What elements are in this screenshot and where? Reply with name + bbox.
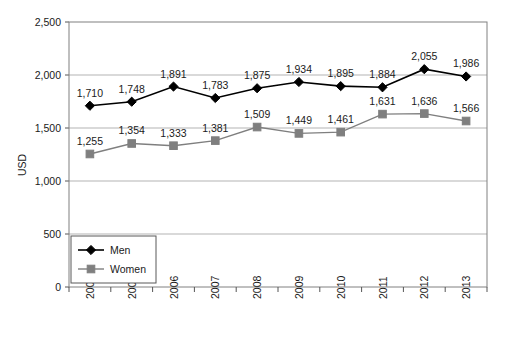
legend-item-label: Women bbox=[110, 263, 146, 275]
data-point-label: 1,631 bbox=[369, 95, 395, 107]
line-chart: 2,5002,0001,5001,00050002004200520062007… bbox=[0, 0, 505, 337]
data-point-label: 1,891 bbox=[160, 68, 186, 80]
legend-item-women[interactable]: Women bbox=[78, 263, 146, 275]
series-line-women bbox=[90, 114, 466, 154]
y-axis-title: USD bbox=[16, 153, 28, 176]
data-point-label: 1,333 bbox=[160, 127, 186, 139]
data-point-marker bbox=[169, 82, 178, 91]
data-point-label: 1,636 bbox=[411, 95, 437, 107]
data-point-label: 1,875 bbox=[244, 69, 270, 81]
data-point-marker bbox=[295, 130, 303, 138]
data-point-marker bbox=[170, 142, 178, 150]
data-point-label: 1,748 bbox=[119, 83, 145, 95]
data-point-marker bbox=[128, 140, 136, 148]
data-point-marker bbox=[420, 65, 429, 74]
data-point-marker bbox=[85, 101, 94, 110]
data-point-label: 1,354 bbox=[119, 124, 145, 136]
y-axis-tick-label: 2,000 bbox=[35, 69, 61, 81]
legend-item-label: Men bbox=[110, 244, 131, 256]
x-axis-tick-label: 2008 bbox=[251, 275, 263, 299]
chart-canvas: 2,5002,0001,5001,00050002004200520062007… bbox=[0, 0, 505, 337]
data-point-marker bbox=[379, 110, 387, 118]
data-point-marker bbox=[462, 72, 471, 81]
x-axis-tick-label: 2009 bbox=[293, 275, 305, 299]
data-point-marker bbox=[212, 137, 220, 145]
data-point-label: 1,255 bbox=[77, 135, 103, 147]
series-women: 1,2551,3541,3331,3811,5091,4491,4611,631… bbox=[77, 95, 480, 158]
data-point-label: 1,783 bbox=[202, 79, 228, 91]
data-point-label: 1,710 bbox=[77, 87, 103, 99]
data-point-label: 1,461 bbox=[328, 113, 354, 125]
y-axis-tick-label: 1,000 bbox=[35, 175, 61, 187]
y-axis-tick-label: 0 bbox=[55, 281, 61, 293]
data-point-label: 1,381 bbox=[202, 122, 228, 134]
x-axis-tick-label: 2006 bbox=[168, 275, 180, 299]
legend: MenWomen bbox=[71, 236, 156, 283]
legend-marker bbox=[87, 265, 95, 273]
data-point-label: 2,055 bbox=[411, 50, 437, 62]
data-point-marker bbox=[211, 93, 220, 102]
data-point-marker bbox=[336, 82, 345, 91]
data-point-marker bbox=[378, 83, 387, 92]
data-point-label: 1,566 bbox=[453, 102, 479, 114]
data-point-marker bbox=[86, 150, 94, 158]
y-axis-tick-label: 2,500 bbox=[35, 16, 61, 28]
data-point-label: 1,449 bbox=[286, 114, 312, 126]
data-point-label: 1,986 bbox=[453, 57, 479, 69]
data-point-marker bbox=[253, 84, 262, 93]
x-axis-tick-label: 2012 bbox=[418, 275, 430, 299]
y-axis-tick-label: 500 bbox=[43, 228, 61, 240]
data-point-label: 1,884 bbox=[369, 68, 395, 80]
data-point-label: 1,509 bbox=[244, 108, 270, 120]
data-point-marker bbox=[462, 117, 470, 125]
data-point-marker bbox=[337, 128, 345, 136]
data-point-marker bbox=[127, 97, 136, 106]
x-axis-tick-label: 2013 bbox=[460, 275, 472, 299]
data-point-label: 1,934 bbox=[286, 63, 312, 75]
y-axis-tick-label: 1,500 bbox=[35, 122, 61, 134]
data-point-label: 1,895 bbox=[328, 67, 354, 79]
x-axis-tick-label: 2010 bbox=[335, 275, 347, 299]
data-point-marker bbox=[421, 110, 429, 118]
x-axis-tick-label: 2007 bbox=[209, 275, 221, 299]
data-point-marker bbox=[294, 77, 303, 86]
x-axis-tick-label: 2011 bbox=[377, 276, 389, 299]
data-point-marker bbox=[253, 123, 261, 131]
